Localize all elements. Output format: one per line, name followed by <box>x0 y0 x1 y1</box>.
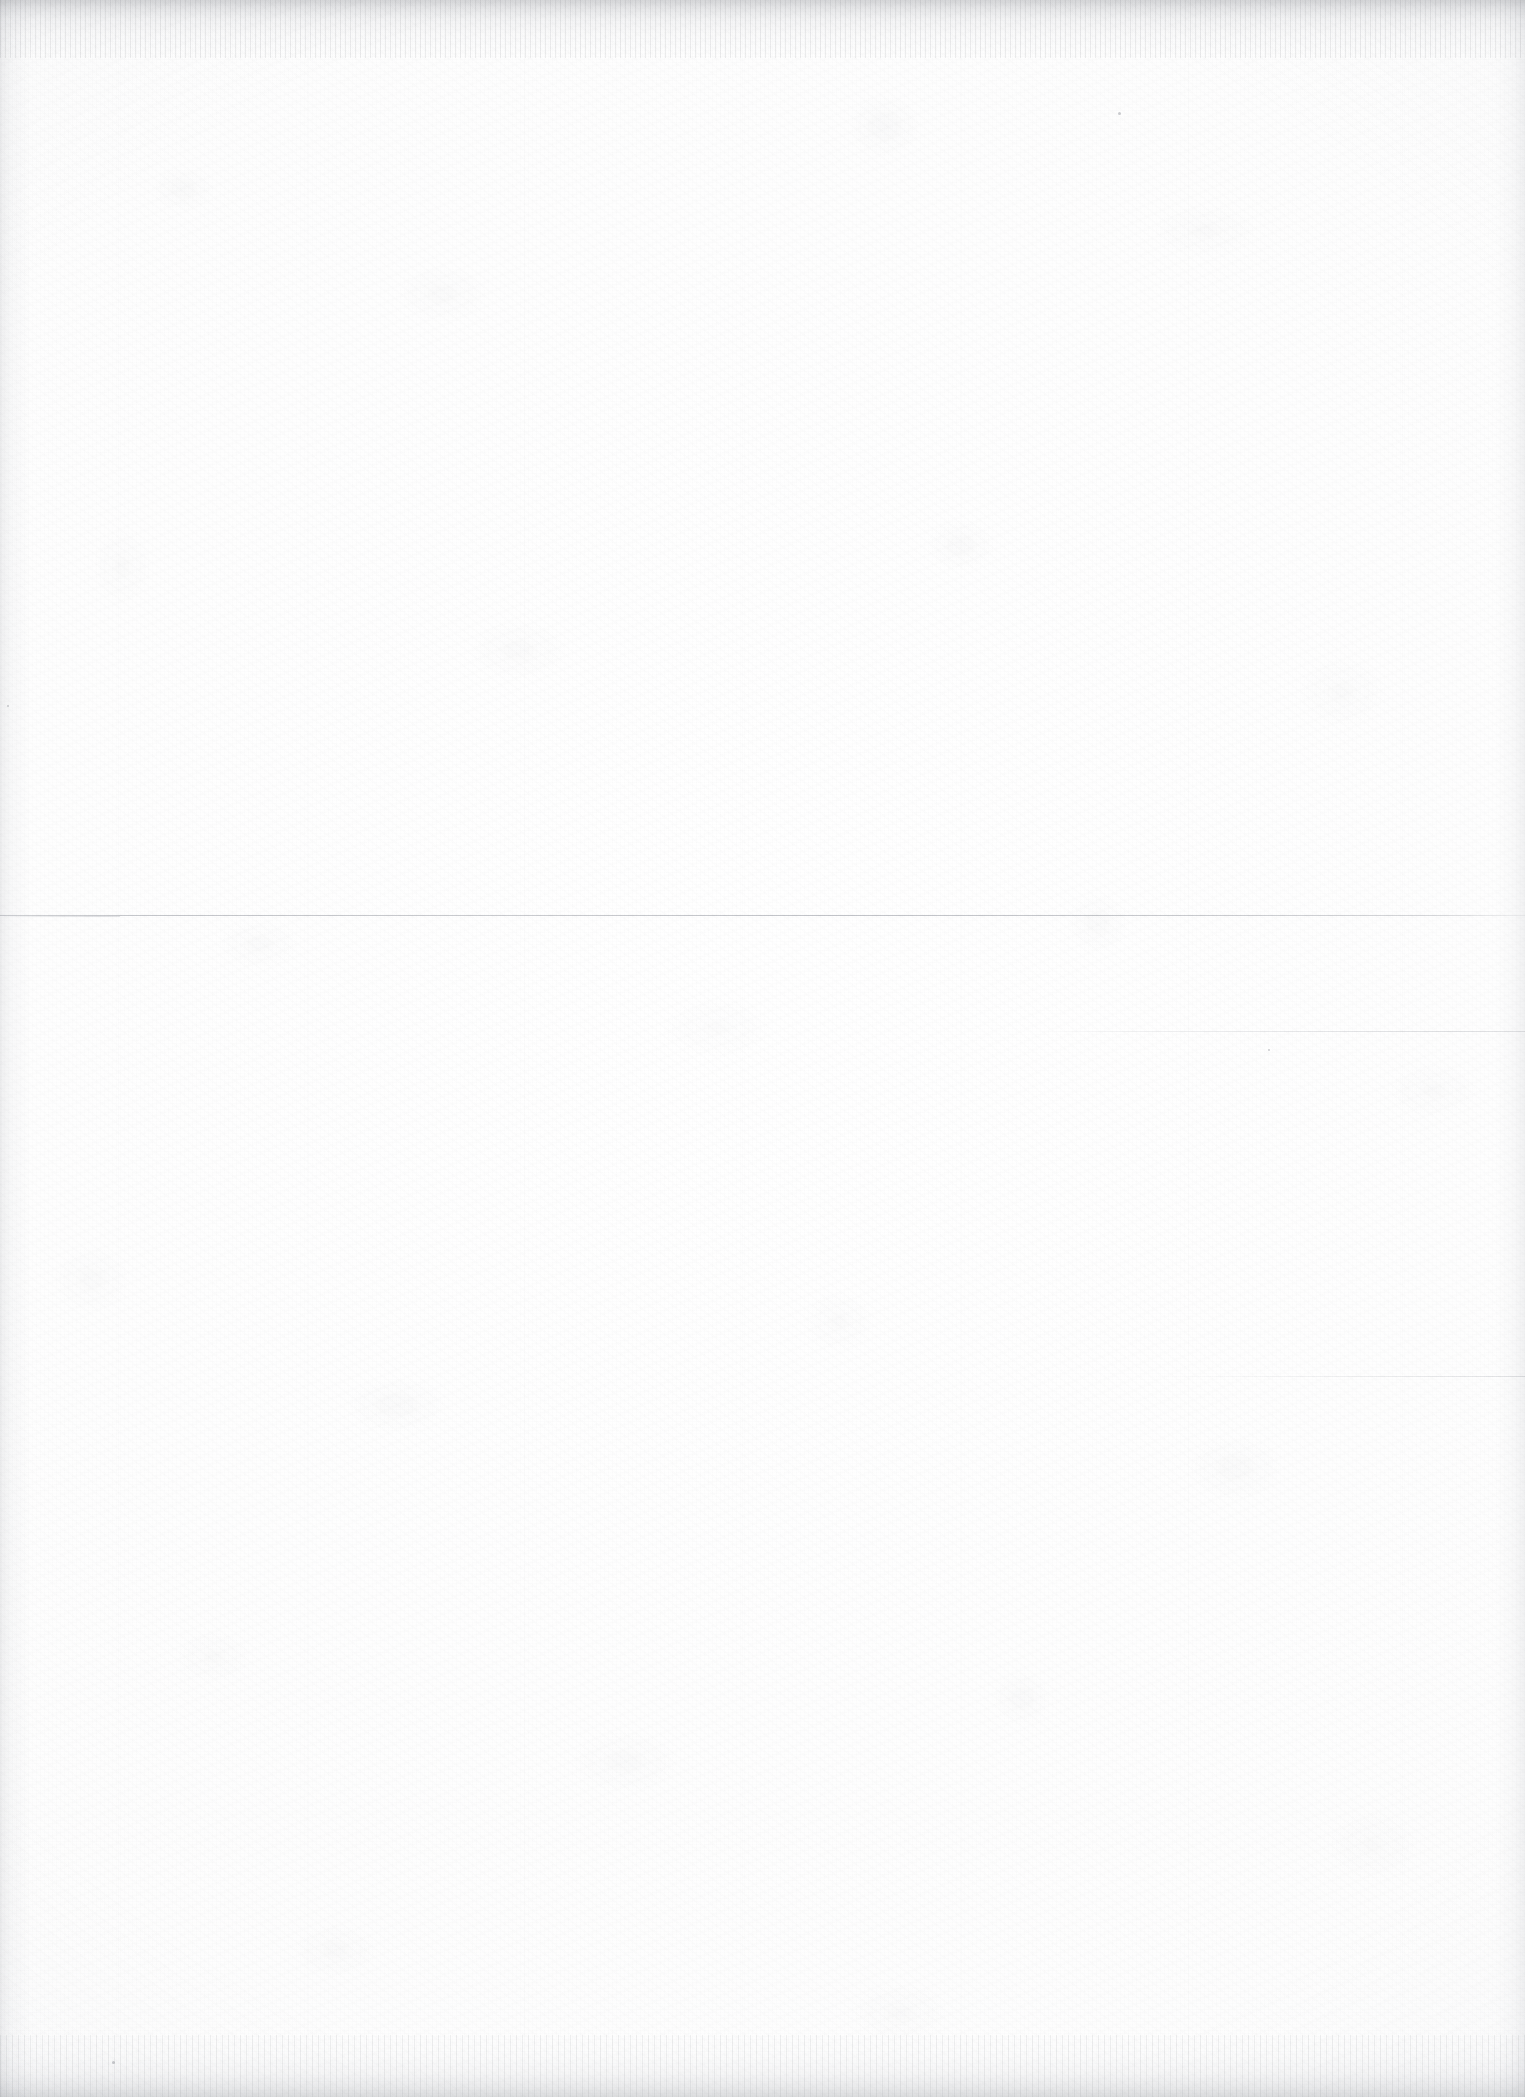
scanner-streaks <box>0 0 1525 2097</box>
scanned-page <box>0 0 1525 2097</box>
